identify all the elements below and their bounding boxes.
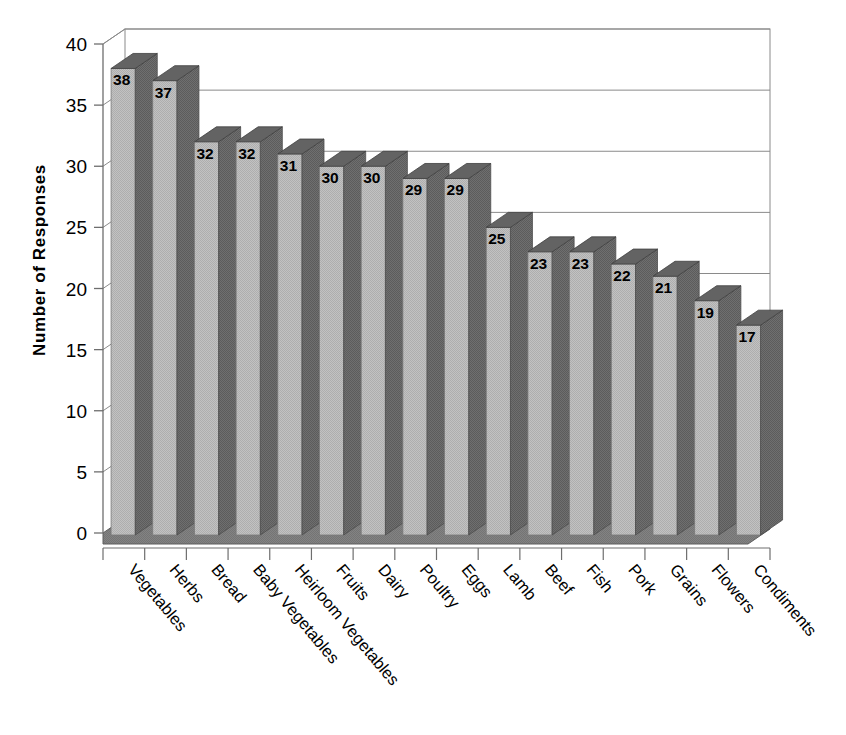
plot-area: 0510152025303540 38373232313030292925232… xyxy=(0,0,846,735)
x-category-label: Herbs xyxy=(167,560,209,605)
x-category-label: Fruits xyxy=(333,560,373,603)
bar-value-label: 23 xyxy=(572,255,590,272)
x-category-label: Grains xyxy=(667,560,712,609)
bar-value-label: 22 xyxy=(613,267,630,284)
bar-value-label: 21 xyxy=(655,279,673,296)
bar-column xyxy=(570,237,616,535)
bar-value-label: 30 xyxy=(363,169,380,186)
y-tick-label: 40 xyxy=(66,34,87,55)
bar-value-label: 17 xyxy=(738,328,755,345)
x-category-label: Lamb xyxy=(500,560,540,603)
y-tick-label: 20 xyxy=(66,279,87,300)
bar-value-label: 32 xyxy=(238,145,255,162)
y-tick-label: 25 xyxy=(66,217,87,238)
bar-value-label: 29 xyxy=(405,181,423,198)
bar-value-label: 30 xyxy=(322,169,339,186)
x-category-label: Condiments xyxy=(750,560,820,639)
x-category-label: Flowers xyxy=(708,560,759,616)
x-category-label: Dairy xyxy=(375,560,414,602)
x-category-label: Poultry xyxy=(417,560,464,611)
x-axis xyxy=(103,548,770,560)
bar-chart: Number of Responses 0 xyxy=(0,0,846,735)
category-labels-group: VegetablesHerbsBreadBaby VegetablesHeirl… xyxy=(125,560,821,688)
bar-column xyxy=(361,151,407,535)
y-tick-label: 5 xyxy=(76,462,87,483)
y-tick-label: 30 xyxy=(66,156,87,177)
y-tick-label: 35 xyxy=(66,95,87,116)
bar-column xyxy=(320,151,366,535)
bar-value-label: 38 xyxy=(113,71,131,88)
bar-value-label: 29 xyxy=(447,181,465,198)
bar-value-label: 25 xyxy=(488,230,506,247)
x-category-label: Bread xyxy=(208,560,250,605)
x-category-label: Pork xyxy=(625,560,661,598)
bar-column xyxy=(695,286,741,535)
x-category-label: Beef xyxy=(542,560,578,598)
x-category-label: Eggs xyxy=(458,560,496,600)
bar-column xyxy=(403,163,449,535)
bar-column xyxy=(153,66,199,535)
bar-column xyxy=(194,127,240,535)
bar-column xyxy=(236,127,282,535)
bar-column xyxy=(445,163,491,535)
bar-column xyxy=(111,53,157,535)
bar-column xyxy=(611,249,657,535)
y-axis: 0510152025303540 xyxy=(66,34,103,544)
y-tick-label: 0 xyxy=(76,523,87,544)
bar-value-label: 32 xyxy=(196,145,213,162)
bar-column xyxy=(653,261,699,535)
bar-value-label: 19 xyxy=(697,304,715,321)
bar-column xyxy=(278,139,324,535)
bar-value-label: 31 xyxy=(280,157,298,174)
bar-value-label: 37 xyxy=(155,84,172,101)
bar-value-label: 23 xyxy=(530,255,548,272)
y-tick-label: 10 xyxy=(66,401,87,422)
y-tick-label: 15 xyxy=(66,340,87,361)
x-category-label: Fish xyxy=(583,560,617,595)
bar-column xyxy=(528,237,574,535)
bar-column xyxy=(486,212,532,535)
